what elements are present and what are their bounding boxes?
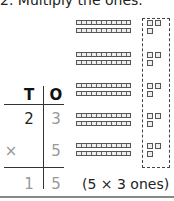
header-divider: [4, 104, 64, 105]
tens-rod: [76, 20, 131, 25]
tens-rod: [76, 60, 131, 65]
multiply-sign: ×: [2, 142, 20, 160]
result-divider: [4, 167, 64, 168]
ones-header: O: [47, 86, 65, 104]
ones-product-note: (5 × 3 ones): [82, 176, 169, 192]
tens-rod: [76, 91, 131, 96]
tens-rod: [76, 151, 131, 156]
ones-highlight-box: [142, 18, 170, 168]
result-tens: 1: [20, 175, 38, 193]
tens-rod: [76, 52, 131, 57]
column-divider: [43, 86, 44, 189]
exercise-heading: 2. Multiply the ones.: [0, 0, 143, 8]
tens-rod: [76, 143, 131, 148]
multiplicand-tens: 2: [20, 110, 38, 128]
result-ones: 5: [47, 175, 65, 193]
tens-header: T: [20, 86, 38, 104]
bottom-rule: [0, 196, 174, 198]
multiplicand-ones: 3: [47, 110, 65, 128]
tens-rod: [76, 28, 131, 33]
tens-rod: [76, 83, 131, 88]
tens-rod: [76, 121, 131, 126]
tens-rod: [76, 113, 131, 118]
multiplier-ones: 5: [47, 142, 65, 160]
